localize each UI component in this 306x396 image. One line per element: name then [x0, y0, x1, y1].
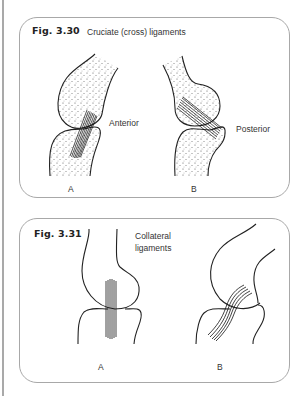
- panel-a-label: Anterior: [109, 118, 139, 129]
- panel-b-letter: B: [191, 184, 197, 194]
- figure-3-30-box: Fig. 3.30 Cruciate (cross) ligaments: [19, 17, 290, 198]
- panel-b-label: Posterior: [236, 124, 270, 135]
- page-margin-bar: [2, 0, 4, 396]
- knee-b-posterior: [163, 56, 225, 176]
- knee-a-anterior: [50, 54, 118, 176]
- panel-b-letter: B: [217, 362, 223, 372]
- collateral-ligament-illustration: [20, 219, 291, 384]
- panel-a-letter: A: [98, 362, 104, 372]
- panel-a-letter: A: [68, 184, 74, 194]
- knee-a-collateral: [78, 229, 141, 344]
- cruciate-ligament-illustration: [20, 18, 291, 199]
- knee-b-collateral: [196, 224, 275, 344]
- figure-3-31-box: Fig. 3.31 Collateral ligaments: [19, 218, 290, 383]
